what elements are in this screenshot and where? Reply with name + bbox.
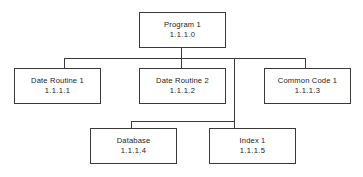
connector-lower-bus xyxy=(131,121,235,122)
structure-chart-diagram: Program 1 1.1.1.0 Date Routine 1 1.1.1.1… xyxy=(0,0,363,177)
node-date-routine-1[interactable]: Date Routine 1 1.1.1.1 xyxy=(14,68,101,104)
node-common-code-1[interactable]: Common Code 1 1.1.1.3 xyxy=(264,68,351,104)
node-database[interactable]: Database 1.1.1.4 xyxy=(90,128,177,164)
node-title: Database xyxy=(117,136,151,146)
node-title: Index 1 xyxy=(240,136,266,146)
node-date-routine-2[interactable]: Date Routine 2 1.1.1.2 xyxy=(139,68,226,104)
connector-spine-to-lower-bus xyxy=(234,58,235,122)
node-title: Date Routine 2 xyxy=(156,76,209,86)
node-index-1[interactable]: Index 1 1.1.1.5 xyxy=(209,128,296,164)
node-title: Program 1 xyxy=(164,20,201,30)
node-code: 1.1.1.5 xyxy=(240,146,265,156)
node-code: 1.1.1.1 xyxy=(45,86,70,96)
node-code: 1.1.1.4 xyxy=(121,146,146,156)
node-title: Common Code 1 xyxy=(278,76,337,86)
node-code: 1.1.1.3 xyxy=(295,86,320,96)
node-program-1[interactable]: Program 1 1.1.1.0 xyxy=(139,12,226,48)
connector-main-bus xyxy=(64,58,306,59)
node-code: 1.1.1.2 xyxy=(170,86,195,96)
node-title: Date Routine 1 xyxy=(31,76,84,86)
node-code: 1.1.1.0 xyxy=(170,30,195,40)
